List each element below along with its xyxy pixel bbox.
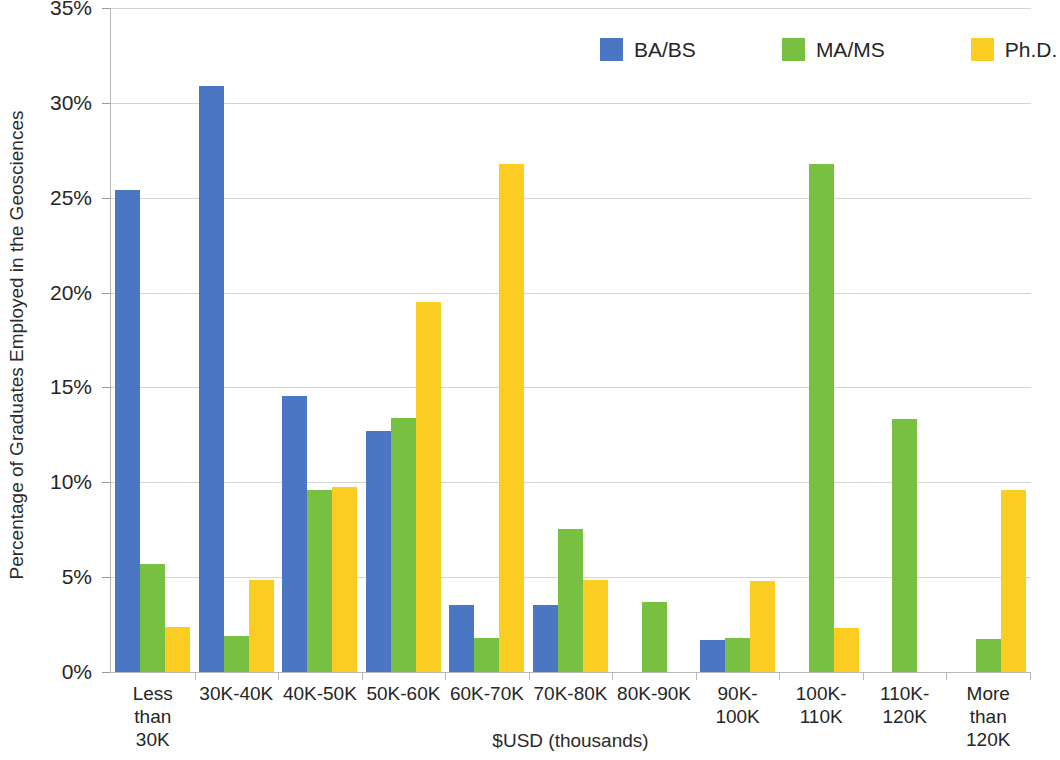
legend-label: MA/MS [816, 38, 885, 61]
bar-ph-d[interactable] [332, 487, 357, 672]
bar-group [612, 8, 696, 672]
bar-ma-ms[interactable] [892, 419, 917, 672]
bar-group [445, 8, 529, 672]
bar-ma-ms[interactable] [224, 636, 249, 672]
y-axis-tick-label: 30% [8, 92, 92, 113]
x-axis-tick-label-line: Less than [112, 682, 194, 728]
bar-ba-bs[interactable] [533, 605, 558, 672]
y-axis-tick-mark [102, 293, 110, 294]
bar-ma-ms[interactable] [558, 529, 583, 672]
bar-ma-ms[interactable] [725, 638, 750, 672]
y-axis-tick-mark [102, 198, 110, 199]
category-separator [779, 672, 780, 680]
category-separator [696, 672, 697, 680]
bar-ba-bs[interactable] [115, 190, 140, 672]
bar-group [529, 8, 613, 672]
legend-swatch-icon [600, 38, 623, 61]
category-separator [946, 672, 947, 680]
x-axis-tick-label-line: 100K- [780, 682, 862, 705]
bar-group [946, 8, 1030, 672]
x-axis-tick-label-line: 90K- [697, 682, 779, 705]
legend-swatch-icon [782, 38, 805, 61]
y-axis-tick-label: 20% [8, 282, 92, 303]
bar-ba-bs[interactable] [282, 396, 307, 672]
bar-ph-d[interactable] [750, 581, 775, 672]
bar-ph-d[interactable] [416, 302, 441, 672]
bar-groups [111, 8, 1030, 672]
y-axis-tick-mark [102, 577, 110, 578]
category-separator [195, 672, 196, 680]
bar-ma-ms[interactable] [474, 638, 499, 672]
bar-ba-bs[interactable] [366, 431, 391, 672]
y-axis-tick-label: 25% [8, 187, 92, 208]
bar-group [195, 8, 279, 672]
category-separator [863, 672, 864, 680]
x-axis-title: $USD (thousands) [111, 729, 1030, 752]
bar-ph-d[interactable] [1001, 490, 1026, 672]
y-axis-tick-mark [102, 672, 110, 673]
legend-label: Ph.D. [1005, 38, 1058, 61]
bar-ph-d[interactable] [583, 580, 608, 672]
bar-ma-ms[interactable] [976, 639, 1001, 672]
legend-item[interactable]: MA/MS [782, 38, 885, 61]
bar-ma-ms[interactable] [809, 164, 834, 672]
y-axis-tick-label: 15% [8, 376, 92, 397]
x-axis-tick-label-line: 40K-50K [279, 682, 361, 705]
y-axis-tick-mark [102, 387, 110, 388]
x-axis-tick-label-line: 60K-70K [446, 682, 528, 705]
bar-group [362, 8, 446, 672]
y-axis-tick-mark [102, 8, 110, 9]
bar-ph-d[interactable] [165, 627, 190, 672]
category-separator [445, 672, 446, 680]
x-axis-tick-label-line: 80K-90K [613, 682, 695, 705]
bar-group [779, 8, 863, 672]
y-axis-tick-label: 0% [8, 661, 92, 682]
legend-item[interactable]: BA/BS [600, 38, 696, 61]
category-separator [362, 672, 363, 680]
bar-group [278, 8, 362, 672]
y-axis-tick-mark [102, 482, 110, 483]
category-separator [278, 672, 279, 680]
bar-ph-d[interactable] [249, 580, 274, 672]
y-axis-tick-label: 10% [8, 471, 92, 492]
y-axis-tick-label: 35% [8, 0, 92, 18]
category-separator [529, 672, 530, 680]
bar-ph-d[interactable] [834, 628, 859, 672]
y-axis-tick-label: 5% [8, 566, 92, 587]
x-axis-tick-label-line: More than [947, 682, 1029, 728]
x-axis-tick-label-line: 50K-60K [363, 682, 445, 705]
bar-ba-bs[interactable] [449, 605, 474, 672]
x-axis-tick-label-line: 30K-40K [196, 682, 278, 705]
x-axis-tick-label-line: 110K [780, 705, 862, 728]
y-axis-tick-mark [102, 103, 110, 104]
legend-label: BA/BS [634, 38, 696, 61]
bar-ma-ms[interactable] [307, 490, 332, 672]
bar-group [696, 8, 780, 672]
legend-swatch-icon [971, 38, 994, 61]
bar-group [863, 8, 947, 672]
bar-chart: Percentage of Graduates Employed in the … [0, 0, 1060, 760]
x-axis-tick-label-line: 110K- [864, 682, 946, 705]
bar-ma-ms[interactable] [642, 602, 667, 672]
bar-ba-bs[interactable] [700, 640, 725, 672]
bar-ba-bs[interactable] [199, 86, 224, 672]
x-axis-tick-label-line: 70K-80K [530, 682, 612, 705]
x-axis-tick-label-line: 120K [864, 705, 946, 728]
x-axis-tick-label-line: 100K [697, 705, 779, 728]
legend-item[interactable]: Ph.D. [971, 38, 1058, 61]
bar-group [111, 8, 195, 672]
legend: BA/BSMA/MSPh.D. [600, 38, 1057, 61]
bar-ph-d[interactable] [499, 164, 524, 672]
bar-ma-ms[interactable] [391, 418, 416, 672]
bar-ma-ms[interactable] [140, 564, 165, 672]
category-separator [612, 672, 613, 680]
category-separator [1030, 672, 1031, 680]
